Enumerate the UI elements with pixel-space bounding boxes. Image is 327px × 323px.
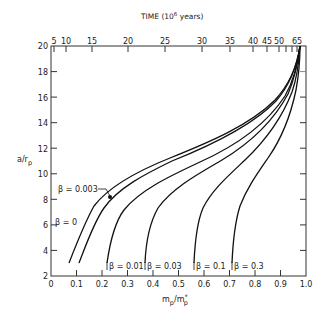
svg-text:25: 25 [160, 37, 170, 46]
svg-text:0.3: 0.3 [121, 280, 134, 289]
svg-text:20: 20 [123, 37, 133, 46]
plot-frame [51, 46, 306, 276]
svg-text:0.4: 0.4 [147, 280, 160, 289]
svg-text:6: 6 [43, 221, 48, 230]
svg-text:0.9: 0.9 [274, 280, 287, 289]
label-beta-03: β = 0.3 [234, 262, 264, 271]
label-beta-0003: β = 0.003 [58, 185, 98, 194]
label-beta-01: β = 0.1 [196, 262, 226, 271]
x-axis-tick-labels: 0 0.1 0.2 0.3 0.4 0.5 0.6 0.7 0.8 0.9 1.… [48, 280, 312, 289]
svg-text:50: 50 [274, 37, 284, 46]
svg-text:65: 65 [292, 37, 302, 46]
svg-text:8: 8 [43, 196, 48, 205]
y-axis-tick-labels: 2 4 6 8 10 12 14 16 18 20 [38, 42, 48, 281]
chart-svg: TIME (106 years) 5 10 15 20 25 30 35 40 … [0, 0, 327, 323]
marker-beta-0003 [108, 195, 112, 199]
label-beta-001: β = 0.01 [109, 262, 144, 271]
svg-text:0.8: 0.8 [249, 280, 262, 289]
label-beta-0: β = 0 [55, 218, 77, 227]
svg-text:1.0: 1.0 [300, 280, 313, 289]
label-beta-003: β = 0.03 [147, 262, 182, 271]
svg-text:5: 5 [51, 37, 56, 46]
svg-text:4: 4 [43, 247, 48, 256]
svg-text:0.1: 0.1 [70, 280, 83, 289]
curves [69, 46, 300, 263]
svg-text:15: 15 [87, 37, 97, 46]
top-axis-tick-labels: 5 10 15 20 25 30 35 40 45 50 65 [51, 37, 302, 46]
svg-text:0.2: 0.2 [96, 280, 109, 289]
right-axis-ticks [300, 72, 306, 251]
x-axis-label: mp/m*p [162, 293, 188, 307]
svg-text:10: 10 [38, 170, 48, 179]
svg-text:45: 45 [262, 37, 272, 46]
svg-text:2: 2 [43, 272, 48, 281]
svg-text:18: 18 [38, 68, 48, 77]
top-axis-title: TIME (106 years) [140, 11, 203, 21]
curve-beta-0003 [79, 46, 300, 263]
svg-text:0.5: 0.5 [172, 280, 185, 289]
svg-text:14: 14 [38, 119, 48, 128]
curve-beta-01 [194, 46, 300, 263]
svg-text:30: 30 [197, 37, 207, 46]
svg-text:20: 20 [38, 42, 48, 51]
svg-text:12: 12 [38, 145, 48, 154]
y-axis-label: a/rp [17, 155, 32, 167]
top-axis-ticks [54, 46, 297, 52]
svg-text:0.7: 0.7 [223, 280, 236, 289]
svg-text:0.6: 0.6 [198, 280, 211, 289]
svg-text:0: 0 [48, 280, 53, 289]
svg-text:10: 10 [61, 37, 71, 46]
curve-beta-0 [69, 46, 300, 263]
svg-text:40: 40 [248, 37, 258, 46]
curve-beta-003 [145, 46, 300, 263]
svg-text:35: 35 [225, 37, 235, 46]
svg-text:16: 16 [38, 94, 48, 103]
